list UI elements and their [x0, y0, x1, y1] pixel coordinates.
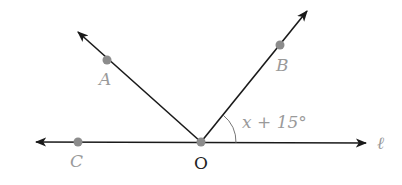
point-c [74, 138, 83, 147]
point-o [197, 138, 206, 147]
label-a: A [97, 69, 111, 89]
angle-label: x + 15° [242, 112, 307, 132]
label-b: B [275, 55, 289, 75]
geometry-diagram: A B C O x + 15° ℓ [0, 0, 402, 185]
label-c: C [70, 151, 83, 171]
line-label: ℓ [377, 133, 384, 153]
point-a [103, 56, 112, 65]
diagram-canvas: A B C O x + 15° ℓ [0, 0, 402, 185]
point-b [276, 41, 285, 50]
label-o: O [194, 153, 208, 173]
ray-oa [78, 32, 201, 142]
angle-arc [223, 115, 236, 143]
